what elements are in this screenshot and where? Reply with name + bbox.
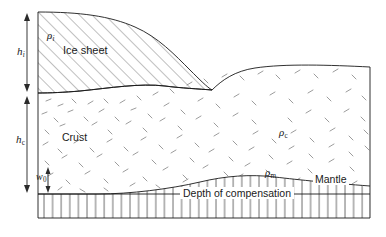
crust-thickness-arrow-head-bottom <box>24 185 30 193</box>
cross-section-svg <box>0 0 386 237</box>
ice-thickness-arrow-head-bottom <box>24 84 30 92</box>
ice-thickness-arrow-head-top <box>24 13 30 21</box>
root-depression-label: w0 <box>36 172 46 182</box>
mantle-density-label: ρm <box>265 167 276 178</box>
crust-label: Crust <box>62 131 87 143</box>
ice-thickness-label: hi <box>17 46 25 57</box>
ice-density-label: ρi <box>47 30 54 41</box>
crust-thickness-arrow-head-top <box>24 96 30 104</box>
geology-cross-section-figure: hi hc w0 ρi ρc ρm Ice sheet Crust Mantle… <box>0 0 386 237</box>
ice-sheet-label: Ice sheet <box>63 44 108 56</box>
crust-density-label: ρc <box>279 127 287 138</box>
mantle-label: Mantle <box>313 173 349 185</box>
crust-thickness-label: hc <box>16 134 25 145</box>
depth-of-compensation-label: Depth of compensation <box>180 187 294 199</box>
